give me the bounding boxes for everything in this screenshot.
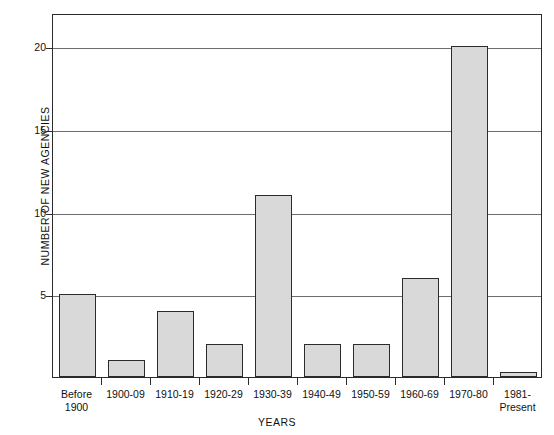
y-axis-tick-label: 20 [16, 41, 46, 53]
x-axis-tick [297, 378, 298, 385]
bar [451, 46, 487, 377]
bar [206, 344, 242, 377]
y-axis-tick-10 [46, 214, 53, 215]
x-axis-tick [444, 378, 445, 385]
bar [255, 195, 291, 377]
y-axis-tick-label: 10 [16, 207, 46, 219]
bar [59, 294, 95, 377]
y-axis-tick-5 [46, 296, 53, 297]
y-axis-tick-15 [46, 131, 53, 132]
bar [500, 372, 536, 377]
bar [108, 360, 144, 377]
x-axis-tick [395, 378, 396, 385]
y-axis-tick-20 [46, 48, 53, 49]
y-axis-tick-label: 15 [16, 124, 46, 136]
x-axis-tick [248, 378, 249, 385]
x-axis-tick [346, 378, 347, 385]
x-axis-tick-label: 1981- Present [489, 388, 546, 413]
x-axis-title: YEARS [0, 416, 554, 428]
x-axis-tick [101, 378, 102, 385]
x-axis-tick [493, 378, 494, 385]
bar [157, 311, 193, 377]
bar [304, 344, 340, 377]
x-axis-tick [199, 378, 200, 385]
y-axis-tick-labels: 5101520 [0, 14, 46, 378]
bar [353, 344, 389, 377]
bar-chart: NUMBER OF NEW AGENCIES 5101520 Before 19… [0, 0, 554, 435]
plot-area [52, 14, 542, 378]
bar [402, 278, 438, 377]
x-axis-tick [150, 378, 151, 385]
y-axis-tick-label: 5 [16, 289, 46, 301]
